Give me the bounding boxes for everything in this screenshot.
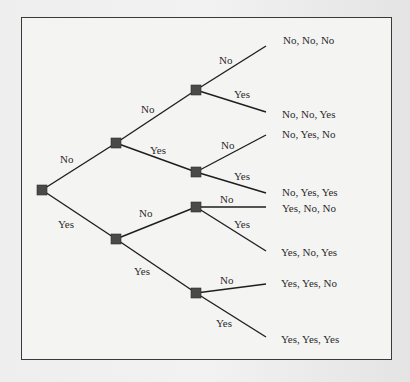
branch-label: Yes — [234, 218, 250, 230]
branch-label: Yes — [134, 265, 150, 277]
node-yes — [111, 234, 121, 244]
branch-label: No — [220, 274, 234, 286]
node-yes-no — [191, 202, 201, 212]
node-no-yes — [191, 167, 201, 177]
branch-label: Yes — [216, 317, 232, 329]
page: No Yes No Yes No Yes No Yes No Yes No Ye… — [0, 0, 410, 382]
branch-label: No — [220, 193, 234, 205]
node-no-no — [191, 85, 201, 95]
branch-label: No — [219, 54, 233, 66]
edge-no-no — [116, 90, 196, 143]
edge-yes-no — [116, 207, 196, 239]
branch-label: Yes — [150, 144, 166, 156]
branch-label: No — [139, 207, 153, 219]
outcome-label: No, No, Yes — [282, 108, 336, 120]
outcome-label: Yes, No, No — [282, 202, 336, 214]
branch-label: No — [221, 139, 235, 151]
node-no — [111, 138, 121, 148]
edge-yes-no-yes — [196, 207, 266, 251]
branch-label: No — [141, 103, 155, 115]
branch-label: No — [60, 153, 74, 165]
edge-no-yes-yes — [196, 172, 266, 193]
outcome-label: Yes, No, Yes — [281, 246, 337, 258]
outcome-label: Yes, Yes, No — [281, 277, 338, 289]
outcome-label: No, Yes, Yes — [282, 186, 338, 198]
node-yes-yes — [191, 288, 201, 298]
branch-label: Yes — [58, 218, 74, 230]
edge-no — [42, 143, 116, 190]
edge-no-no-no — [196, 46, 266, 90]
outcome-label: No, No, No — [283, 34, 335, 46]
edge-no-no-yes — [196, 90, 266, 112]
outcome-label: No, Yes, No — [282, 128, 336, 140]
probability-tree: No Yes No Yes No Yes No Yes No Yes No Ye… — [0, 0, 410, 382]
root-node — [37, 185, 47, 195]
edge-yes-yes-yes — [196, 293, 266, 337]
edge-yes — [42, 190, 116, 239]
branch-label: Yes — [234, 88, 250, 100]
outcome-label: Yes, Yes, Yes — [281, 333, 339, 345]
branch-label: Yes — [234, 170, 250, 182]
edge-yes-yes — [116, 239, 196, 293]
